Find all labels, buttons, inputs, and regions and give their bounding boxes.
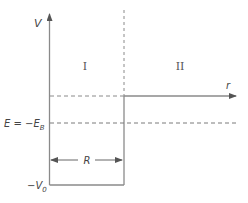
v-axis-label: V bbox=[34, 17, 43, 30]
well-bottom-label: −V0 bbox=[27, 180, 47, 194]
square-well-diagram: V r I II E = −EB −V0 R bbox=[0, 0, 248, 203]
r-axis-label: r bbox=[226, 80, 231, 91]
region-label-II: II bbox=[176, 60, 185, 73]
energy-level-label: E = −EB bbox=[4, 118, 45, 132]
region-label-I: I bbox=[83, 60, 87, 73]
width-marker-label: R bbox=[84, 155, 91, 166]
